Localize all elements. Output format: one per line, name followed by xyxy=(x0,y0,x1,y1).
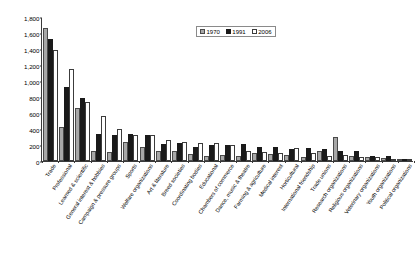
bar xyxy=(198,143,203,161)
bar xyxy=(133,135,138,161)
bar-group xyxy=(317,18,333,161)
bar xyxy=(375,157,380,161)
plot-area: 02004006008001,0001,2001,4001,6001,800 xyxy=(41,18,413,162)
bar-group xyxy=(156,18,172,161)
bar xyxy=(182,142,187,161)
y-axis-tick-label: 800 xyxy=(29,95,39,102)
y-axis-tick-label: 1,600 xyxy=(24,31,39,38)
bar xyxy=(166,140,171,161)
bar-group xyxy=(284,18,300,161)
bar xyxy=(407,159,412,161)
bar-group xyxy=(365,18,381,161)
bar-group xyxy=(123,18,139,161)
bar-group xyxy=(59,18,75,161)
y-axis-tick-label: 1,400 xyxy=(24,47,39,54)
legend-label: 2006 xyxy=(258,29,271,35)
bar xyxy=(101,116,106,161)
legend-item: 1970 xyxy=(200,29,220,35)
bar-group xyxy=(252,18,268,161)
bar-group xyxy=(268,18,284,161)
bar xyxy=(53,50,58,161)
bar xyxy=(262,152,267,161)
legend-label: 1970 xyxy=(207,29,220,35)
y-axis-tick-label: 600 xyxy=(29,111,39,118)
legend-label: 1991 xyxy=(232,29,245,35)
bar xyxy=(85,102,90,161)
bars-layer xyxy=(42,18,413,161)
bar-group xyxy=(220,18,236,161)
bar xyxy=(214,143,219,161)
bar-group xyxy=(301,18,317,161)
bar-group xyxy=(91,18,107,161)
bar-group xyxy=(188,18,204,161)
bar xyxy=(278,153,283,161)
bar xyxy=(343,155,348,161)
bar-group xyxy=(381,18,397,161)
legend-swatch xyxy=(226,29,231,34)
bar xyxy=(311,153,316,161)
bar-group xyxy=(140,18,156,161)
bar-group xyxy=(204,18,220,161)
bar-group xyxy=(43,18,59,161)
y-axis-tick-label: 400 xyxy=(29,127,39,134)
bar xyxy=(246,151,251,161)
bar xyxy=(391,159,396,161)
y-axis-tick-label: 1,800 xyxy=(24,15,39,22)
bar-group xyxy=(349,18,365,161)
x-axis-tick-label: Trade xyxy=(44,163,57,178)
bar xyxy=(230,145,235,161)
legend-item: 1991 xyxy=(226,29,246,35)
bar xyxy=(117,129,122,161)
bar-group xyxy=(333,18,349,161)
x-axis-tick-label: Sports xyxy=(124,163,138,180)
bar-group xyxy=(397,18,413,161)
bar-group xyxy=(75,18,91,161)
bar xyxy=(69,69,74,161)
bar xyxy=(294,148,299,161)
bar xyxy=(150,135,155,161)
y-axis-tick-label: 1,200 xyxy=(24,63,39,70)
bar-group xyxy=(172,18,188,161)
bar xyxy=(359,157,364,161)
y-axis-tick-label: 200 xyxy=(29,143,39,150)
bar-chart: Number of associations 02004006008001,00… xyxy=(0,0,419,254)
legend-swatch xyxy=(200,29,205,34)
legend-swatch xyxy=(252,29,257,34)
bar-group xyxy=(107,18,123,161)
bar-group xyxy=(236,18,252,161)
x-axis-labels: TradeProfessionalLearned & scientificGen… xyxy=(41,163,413,254)
x-axis-tick-mark xyxy=(414,161,415,163)
chart-legend: 197019912006 xyxy=(196,26,276,37)
y-axis-tick-label: 1,000 xyxy=(24,79,39,86)
legend-item: 2006 xyxy=(252,29,272,35)
bar xyxy=(327,156,332,161)
